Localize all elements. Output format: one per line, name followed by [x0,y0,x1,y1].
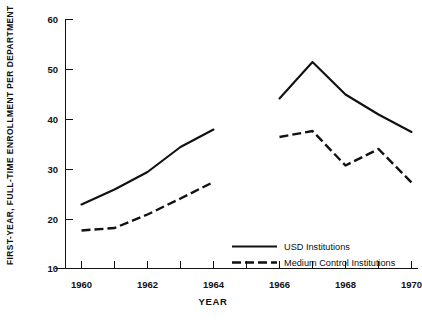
y-axis-ticks [66,20,74,220]
x-axis-title: YEAR [199,296,228,307]
y-tick-label: 20 [47,214,58,225]
chart-legend: USD Institutions Medium Control Institut… [232,242,396,268]
y-tick-label: 40 [47,114,58,125]
legend-label-usd: USD Institutions [284,242,350,252]
y-tick-label: 60 [47,14,58,25]
x-tick-label: 1966 [269,279,290,290]
series-usd-institutions-segment-1 [82,130,214,205]
x-tick-label: 1960 [71,279,92,290]
y-axis-tick-labels: 60 50 40 30 20 10 [47,14,58,274]
y-tick-label: 10 [47,263,58,274]
x-tick-label: 1964 [203,279,225,290]
chart-figure: FIRST-YEAR, FULL-TIME ENROLLMENT PER DEP… [0,0,422,320]
plot-area [82,62,412,231]
series-medium-control-institutions-segment-2 [280,131,412,183]
series-usd-institutions-segment-2 [280,62,412,132]
legend-label-medium-control: Medium Control Institutions [284,258,396,268]
x-axis-tick-labels: 1960 1962 1964 1966 1968 1970 [71,279,422,290]
y-tick-label: 30 [47,164,58,175]
x-tick-label: 1962 [137,279,158,290]
y-axis-title: FIRST-YEAR, FULL-TIME ENROLLMENT PER DEP… [5,5,15,265]
x-tick-label: 1968 [335,279,356,290]
series-medium-control-institutions-segment-1 [82,182,214,231]
x-tick-label: 1970 [401,279,422,290]
chart-canvas: FIRST-YEAR, FULL-TIME ENROLLMENT PER DEP… [0,0,422,320]
y-tick-label: 50 [47,64,58,75]
